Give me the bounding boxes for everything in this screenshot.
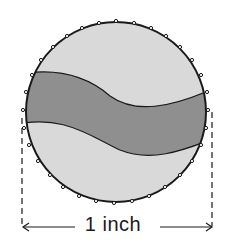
bottle-cap-diagram [0, 0, 226, 243]
dimension-label: 1 inch [0, 213, 226, 236]
